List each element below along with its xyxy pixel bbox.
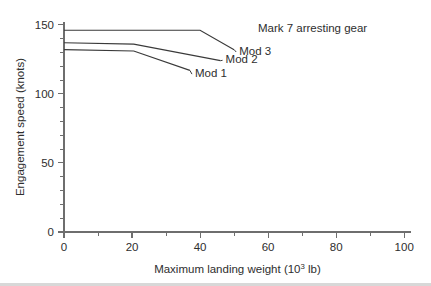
series-label-mod-1: Mod 1 xyxy=(195,67,227,79)
y-axis-title: Engagement speed (knots) xyxy=(14,58,26,196)
y-tick-label: 100 xyxy=(35,88,54,100)
x-tick-label: 40 xyxy=(194,241,207,253)
axis-tick-labels: 050100150020406080100 xyxy=(35,19,414,253)
y-tick-label: 50 xyxy=(41,157,54,169)
leader-line-mod-3 xyxy=(234,50,236,52)
series-label-mod-2: Mod 2 xyxy=(226,53,258,65)
leader-line-mod-1 xyxy=(190,70,192,74)
annotation-mark-7-arresting-gear: Mark 7 arresting gear xyxy=(258,22,367,34)
x-tick-label: 0 xyxy=(61,241,67,253)
y-tick-label: 0 xyxy=(48,226,54,238)
y-tick-label: 150 xyxy=(35,19,54,31)
series-labels: Mod 3Mod 2Mod 1 xyxy=(195,45,271,79)
chart-figure: 050100150020406080100 Mod 3Mod 2Mod 1 Ma… xyxy=(0,0,431,286)
x-tick-label: 100 xyxy=(395,241,414,253)
x-tick-label: 20 xyxy=(126,241,139,253)
series-line-mod-2 xyxy=(64,43,220,61)
x-tick-label: 80 xyxy=(330,241,343,253)
series-line-mod-1 xyxy=(64,50,190,71)
chart-annotations: Mark 7 arresting gear xyxy=(258,22,367,34)
engagement-speed-chart: 050100150020406080100 Mod 3Mod 2Mod 1 Ma… xyxy=(0,0,431,286)
x-axis-title: Maximum landing weight (103 lb) xyxy=(154,262,321,275)
x-tick-label: 60 xyxy=(262,241,275,253)
data-series xyxy=(64,30,234,70)
